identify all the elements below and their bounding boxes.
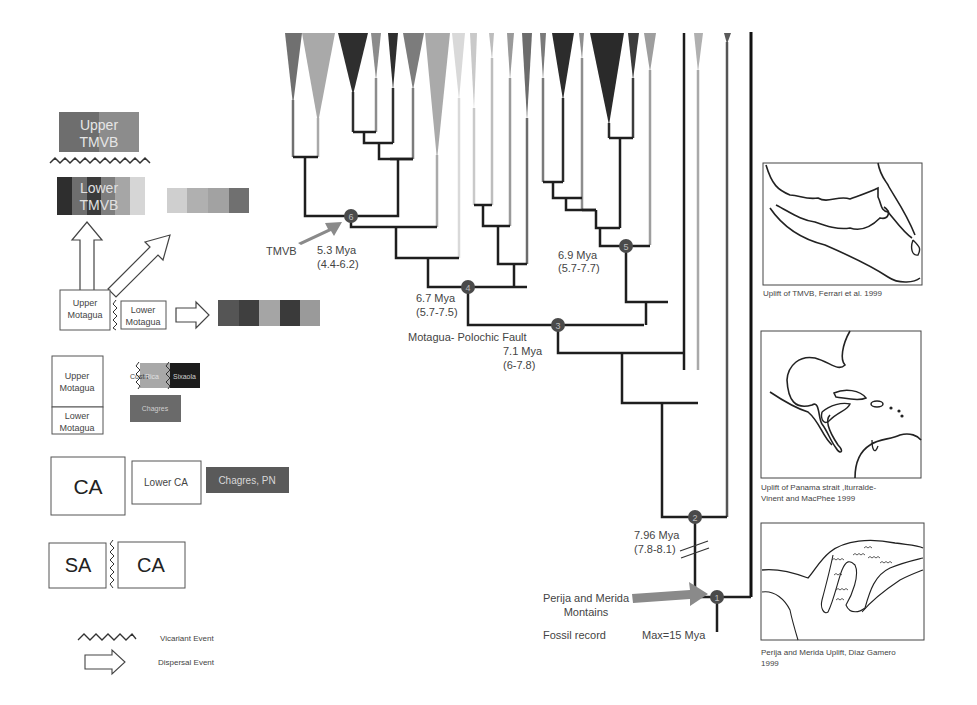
lower-motagua-label-1: Lower: [131, 305, 156, 315]
lower-tmvb-label-1: Lower: [80, 180, 118, 196]
perija-label-1: Perija and Merida: [543, 592, 630, 604]
chagres-pn-label: Chagres, PN: [218, 475, 275, 486]
motagua-dispersal-swatches: [218, 300, 320, 326]
node5-range: (5.7-7.7): [558, 262, 600, 274]
upper-motagua-label-1: Upper: [73, 298, 98, 308]
fossil-max-label: Max=15 Mya: [642, 629, 706, 641]
upper-tmvb-block: Upper TMVB: [59, 112, 139, 152]
node5-age: 6.9 Mya: [558, 249, 598, 261]
lower-motagua-2-label-1: Lower: [65, 411, 90, 421]
ca-label: CA: [73, 475, 102, 498]
left-legend: Upper TMVB Lower TMVB U: [49, 112, 320, 674]
figure-canvas: Upper TMVB Lower TMVB U: [0, 0, 977, 705]
svg-text:1: 1: [714, 593, 719, 603]
lower-motagua-box-2: Lower Motagua: [52, 407, 103, 434]
node-5: 5: [619, 239, 633, 253]
node3-event-label: Motagua- Polochic Fault: [408, 331, 527, 343]
ca-box-2: CA: [118, 542, 185, 588]
node-6: 6: [344, 209, 358, 223]
node3-age: 7.1 Mya: [503, 345, 543, 357]
chagres-pn-block: Chagres, PN: [206, 467, 289, 493]
upper-tmvb-label-2: TMVB: [80, 134, 119, 150]
dispersal-arrow-up-icon: [72, 222, 102, 291]
upper-motagua-2-label-1: Upper: [65, 371, 90, 381]
node-4: 4: [461, 280, 475, 294]
node6-range: (4.4-6.2): [317, 258, 359, 270]
map-tmvb-caption: Uplift of TMVB, Ferrari et al. 1999: [763, 289, 883, 298]
dispersal-event-key-icon: [85, 650, 125, 674]
map-perija: Perija and Merida Uplift, Diaz Gamero 19…: [761, 523, 924, 668]
chagres-label: Chagres: [142, 405, 169, 413]
upper-motagua-2-label-2: Motagua: [59, 383, 94, 393]
dispersal-arrow-diagonal-icon: [108, 235, 170, 297]
node3-range: (6-7.8): [503, 359, 535, 371]
perija-label-2: Montains: [564, 606, 609, 618]
costa-rica-block: Costa Rica Sixaola: [130, 362, 200, 389]
vicariant-zigzag-icon: [50, 158, 150, 163]
node2-range: (7.8-8.1): [634, 543, 676, 555]
tmvb-event-arrow-icon: [298, 222, 342, 245]
vicariant-zigzag-vertical-icon: [110, 540, 114, 588]
perija-event-arrow-icon: [632, 582, 708, 606]
dispersal-arrow-right-icon: [176, 302, 209, 328]
map-perija-caption-2: 1999: [761, 659, 779, 668]
upper-motagua-box-2: Upper Motagua: [52, 356, 103, 407]
fossil-record-label: Fossil record: [543, 629, 606, 641]
upper-motagua-box: Upper Motagua: [60, 290, 110, 330]
svg-text:5: 5: [623, 242, 628, 252]
rica-label: Rica: [145, 373, 159, 380]
sa-box: SA: [49, 543, 106, 588]
svg-text:2: 2: [692, 513, 697, 523]
ca-box: CA: [51, 457, 125, 515]
sixaola-label: Sixaola: [173, 373, 196, 380]
ca-2-label: CA: [137, 554, 165, 576]
lower-tmvb-block: Lower TMVB: [57, 177, 145, 215]
node4-age: 6.7 Mya: [416, 292, 456, 304]
lower-ca-label: Lower CA: [144, 477, 188, 488]
dispersal-event-label: Dispersal Event: [158, 658, 215, 667]
tip-stems: [293, 32, 751, 597]
lower-motagua-box: Lower Motagua: [121, 301, 166, 329]
map-panama: Uplift of Panama strait ,Iturralde- Vine…: [761, 331, 921, 503]
node-1: 1: [710, 590, 724, 604]
lower-ca-box: Lower CA: [132, 461, 201, 504]
svg-text:4: 4: [465, 283, 470, 293]
chagres-block: Chagres: [130, 395, 181, 422]
node4-range: (5.7-7.5): [416, 306, 458, 318]
node2-age: 7.96 Mya: [634, 529, 680, 541]
lower-motagua-2-label-2: Motagua: [59, 423, 94, 433]
svg-text:3: 3: [555, 321, 560, 331]
lower-motagua-label-2: Motagua: [125, 317, 160, 327]
vicariant-event-label: Vicariant Event: [160, 634, 214, 643]
node6-age: 5.3 Mya: [317, 244, 357, 256]
sa-label: SA: [65, 554, 92, 576]
tmvb-dispersal-swatches: [167, 188, 249, 213]
map-perija-caption-1: Perija and Merida Uplift, Diaz Gamero: [761, 648, 896, 657]
tmvb-event-label: TMVB: [266, 245, 297, 257]
node-3: 3: [551, 318, 565, 332]
svg-text:6: 6: [348, 212, 353, 222]
node-2: 2: [688, 510, 702, 524]
vicariant-zigzag-vertical-icon: [113, 300, 117, 330]
vicariant-event-key-icon: [78, 634, 136, 640]
map-tmvb: Uplift of TMVB, Ferrari et al. 1999: [763, 163, 922, 298]
tree-annotations: TMVB 5.3 Mya (4.4-6.2) 6.7 Mya (5.7-7.5)…: [266, 244, 706, 641]
map-panama-caption-2: Vinent and MacPhee 1999: [761, 494, 856, 503]
map-panama-caption-1: Uplift of Panama strait ,Iturralde-: [761, 483, 876, 492]
lower-tmvb-label-2: TMVB: [80, 197, 119, 213]
upper-tmvb-label-1: Upper: [80, 117, 118, 133]
upper-motagua-label-2: Motagua: [67, 310, 102, 320]
